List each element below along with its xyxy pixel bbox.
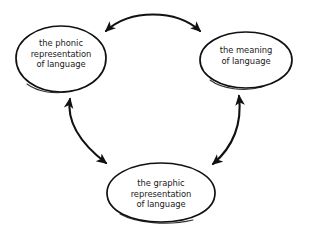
diagram-canvas: the phonic representation of language th… xyxy=(0,0,311,233)
diagram-graphics xyxy=(0,0,311,233)
node-shape-phonic[interactable] xyxy=(16,26,106,93)
node-shape-meaning[interactable] xyxy=(200,32,292,89)
connector-graphic-meaning[interactable] xyxy=(213,96,240,164)
connector-phonic-graphic[interactable] xyxy=(69,99,106,163)
connector-phonic-meaning[interactable] xyxy=(106,15,200,32)
node-shape-graphic[interactable] xyxy=(107,163,215,223)
